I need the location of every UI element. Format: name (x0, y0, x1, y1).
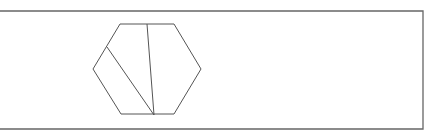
frame-border (0, 11, 423, 129)
vertical-cut-line (147, 24, 154, 115)
hexagon-shape (93, 24, 201, 114)
diagonal-cut-line (107, 47, 154, 115)
hexagon-diagram (0, 0, 438, 136)
